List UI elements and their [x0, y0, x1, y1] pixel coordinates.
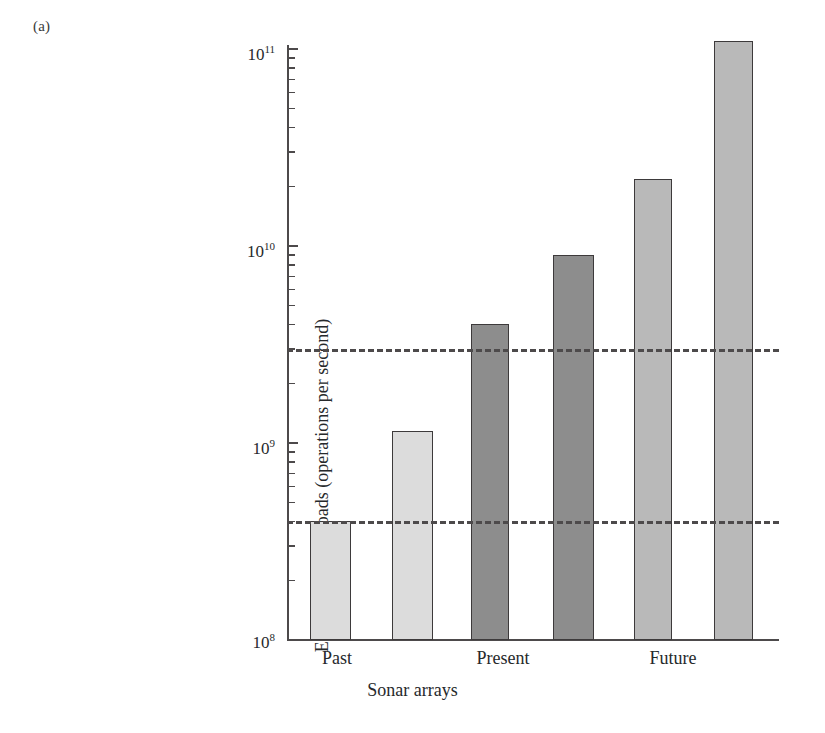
bar-present-2: [553, 255, 594, 640]
y-tick-minor: [287, 486, 295, 488]
y-tick-minor: [287, 57, 295, 59]
y-tick-minor: [287, 186, 295, 188]
x-tick-label-future: Future: [608, 648, 738, 669]
panel-label: (a): [33, 18, 50, 35]
bar-future-1: [634, 179, 672, 640]
y-axis-line: [287, 45, 289, 641]
x-tick-label-past: Past: [282, 648, 392, 669]
y-tick-minor: [287, 289, 295, 291]
y-tick-minor: [287, 67, 295, 69]
bar-past-2: [392, 431, 433, 640]
bar-present-1: [471, 324, 509, 640]
y-tick-minor: [287, 108, 295, 110]
y-tick-minor: [287, 473, 295, 475]
y-axis-title-anchor: Electronic sonar loads (operations per s…: [215, 120, 216, 121]
y-tick-minor: [287, 151, 295, 153]
y-tick-major: [287, 245, 298, 247]
y-tick-label-1e8: 108: [155, 632, 275, 651]
y-tick-major: [287, 639, 298, 641]
y-tick-minor: [287, 264, 295, 266]
reference-line-2: [287, 521, 779, 524]
x-tick-label-present: Present: [438, 648, 568, 669]
y-tick-minor: [287, 127, 295, 129]
bar-past-1: [310, 521, 351, 640]
x-axis-line: [287, 639, 779, 641]
y-tick-minor: [287, 305, 295, 307]
y-tick-minor: [287, 324, 295, 326]
y-tick-label-1e10: 1010: [155, 241, 275, 260]
y-tick-minor: [287, 254, 295, 256]
bar-future-2: [714, 41, 753, 640]
figure-panel-a: (a) Electronic sonar loads (operations p…: [0, 0, 825, 733]
y-tick-minor: [287, 79, 295, 81]
y-tick-minor: [287, 383, 295, 385]
y-tick-minor: [287, 580, 295, 582]
y-tick-minor: [287, 502, 295, 504]
y-tick-minor: [287, 545, 295, 547]
y-tick-label-1e9: 109: [155, 438, 275, 457]
y-tick-minor: [287, 276, 295, 278]
reference-line-1: [287, 349, 779, 352]
y-tick-major: [287, 442, 298, 444]
y-tick-major: [287, 48, 298, 50]
y-tick-label-1e11: 1011: [155, 44, 275, 63]
y-tick-minor: [287, 92, 295, 94]
x-axis-title: Sonar arrays: [0, 680, 825, 701]
y-tick-minor: [287, 451, 295, 453]
y-tick-minor: [287, 461, 295, 463]
